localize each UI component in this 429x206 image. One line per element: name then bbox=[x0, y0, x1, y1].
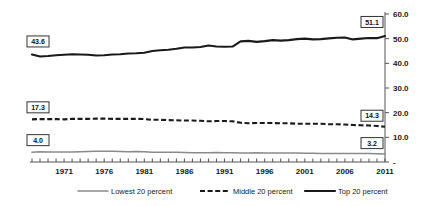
svg-text:43.6: 43.6 bbox=[31, 38, 45, 45]
callout-lowest-end: 3.2 bbox=[361, 138, 383, 149]
chart-canvas: -10.020.030.040.050.060.0 19711976198119… bbox=[0, 0, 429, 206]
x-tick-label: 1986 bbox=[176, 167, 194, 176]
series-line-lowest-20-percent bbox=[32, 151, 385, 154]
chart-legend: Lowest 20 percentMiddle 20 percentTop 20… bbox=[78, 187, 389, 196]
endpoint-callouts: 43.617.34.051.114.33.2 bbox=[27, 16, 383, 148]
x-axis: 197119761981198619911996200120062011 bbox=[30, 159, 394, 177]
callout-middle-end: 14.3 bbox=[361, 110, 383, 121]
callout-lowest-start: 4.0 bbox=[27, 135, 49, 146]
callout-top-start: 43.6 bbox=[27, 36, 49, 47]
legend-item-top-20-percent: Top 20 percent bbox=[305, 187, 389, 196]
series-line-middle-20-percent bbox=[32, 119, 385, 127]
x-tick-label: 2001 bbox=[296, 167, 314, 176]
x-tick-label: 1981 bbox=[135, 167, 153, 176]
y-tick-label: 40.0 bbox=[393, 59, 409, 68]
y-tick-label: 30.0 bbox=[393, 84, 409, 93]
y-tick-label: 50.0 bbox=[393, 35, 409, 44]
y-tick-label: 10.0 bbox=[393, 133, 409, 142]
x-tick-label: 1976 bbox=[95, 167, 113, 176]
callout-top-end: 51.1 bbox=[361, 16, 383, 27]
y-axis: -10.020.030.040.050.060.0 bbox=[385, 10, 409, 167]
legend-item-middle-20-percent: Middle 20 percent bbox=[200, 187, 294, 196]
svg-text:3.2: 3.2 bbox=[367, 140, 377, 147]
legend-item-lowest-20-percent: Lowest 20 percent bbox=[78, 187, 173, 196]
y-tick-label: 60.0 bbox=[393, 10, 409, 19]
legend-label: Middle 20 percent bbox=[233, 187, 294, 196]
x-tick-label: 2011 bbox=[376, 167, 394, 176]
legend-label: Top 20 percent bbox=[338, 187, 389, 196]
x-tick-label: 1971 bbox=[55, 167, 73, 176]
income-share-line-chart: -10.020.030.040.050.060.0 19711976198119… bbox=[0, 0, 429, 206]
svg-text:17.3: 17.3 bbox=[31, 104, 45, 111]
series-line-top-20-percent bbox=[32, 36, 385, 56]
svg-text:51.1: 51.1 bbox=[365, 19, 379, 26]
series-lines bbox=[32, 36, 385, 154]
x-tick-label: 2006 bbox=[336, 167, 354, 176]
x-tick-label: 1991 bbox=[216, 167, 234, 176]
callout-middle-start: 17.3 bbox=[27, 102, 49, 113]
legend-label: Lowest 20 percent bbox=[111, 187, 173, 196]
svg-text:4.0: 4.0 bbox=[33, 137, 43, 144]
svg-text:14.3: 14.3 bbox=[365, 112, 379, 119]
y-tick-label: 20.0 bbox=[393, 109, 409, 118]
y-tick-label: - bbox=[393, 158, 396, 167]
x-tick-label: 1996 bbox=[256, 167, 274, 176]
